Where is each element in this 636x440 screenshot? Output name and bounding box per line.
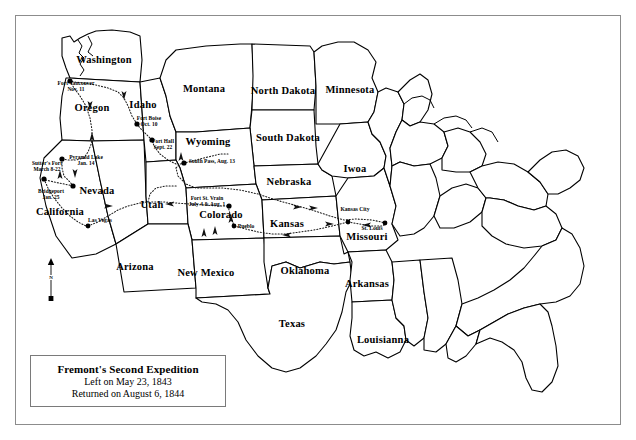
site-date: March 8-22	[32, 167, 62, 173]
city-dot-st-louis	[383, 221, 388, 226]
site-label-fort-hall: Fort HallSept. 22	[152, 139, 174, 150]
site-label-fort-vancouver: Fort VancouverNov. 11	[58, 81, 95, 92]
site-date: Nov. 11	[58, 87, 95, 93]
state-label-idaho: Idaho	[129, 99, 156, 110]
state-label-missouri: Missouri	[346, 231, 387, 242]
state-label-new-mexico: New Mexico	[177, 267, 234, 278]
state-label-colorado: Colorado	[199, 209, 243, 220]
site-date: Jan. 25	[38, 195, 64, 201]
state-label-washington: Washington	[76, 54, 132, 65]
state-label-arizona: Arizona	[116, 261, 154, 272]
state-label-louisianna: Louisianna	[357, 334, 409, 345]
state-label-iwoa: Iwoa	[344, 163, 367, 174]
title-cartouche: Fremont's Second Expedition Left on May …	[30, 355, 226, 407]
city-dot-pueblo	[232, 224, 237, 229]
compass-north-label: N	[48, 275, 54, 280]
city-label-pueblo: Pueblo	[238, 224, 254, 230]
site-dot-south-pass	[181, 160, 186, 165]
state-label-north-dakota: North Dakota	[251, 85, 316, 96]
city-dot-kansas-city	[346, 220, 351, 225]
city-label-st-louis: St. Louis	[361, 226, 382, 232]
state-label-oregon: Oregon	[75, 102, 110, 113]
state-label-utah: Utah	[141, 199, 164, 210]
state-outlines	[40, 30, 584, 392]
state-label-montana: Montana	[183, 83, 225, 94]
site-dot-fort-st-vrain	[226, 203, 231, 208]
site-label-fort-boise: Fort BoiseOct. 10	[137, 116, 161, 127]
north-arrow-compass: N	[44, 258, 58, 304]
site-label-fort-st-vrain: Fort St. VrainJuly 4 & Aug. 1	[189, 196, 226, 207]
state-label-south-dakota: South Dakota	[256, 132, 320, 143]
state-label-minnesota: Minnesota	[325, 84, 374, 95]
site-label-pyramid-lake: Pyramid LakeJan. 14	[69, 155, 103, 166]
state-label-texas: Texas	[279, 318, 305, 329]
site-date: Oct. 10	[137, 122, 161, 128]
city-dot-las-vegas	[86, 224, 91, 229]
state-label-wyoming: Wyoming	[186, 136, 231, 147]
return-date-line: Returned on August 6, 1844	[72, 388, 185, 400]
site-label-south-pass: South Pass, Aug. 13	[189, 159, 235, 165]
state-label-oklahoma: Oklahoma	[281, 265, 330, 276]
city-label-kansas-city: Kansas City	[340, 207, 369, 213]
city-label-las-vegas: Las Vegas	[88, 218, 112, 224]
map-plate: .bd { fill:#ffffff; stroke:#000000; stro…	[0, 0, 636, 440]
state-label-kansas: Kansas	[270, 218, 304, 229]
site-date: July 4 & Aug. 1	[189, 202, 226, 208]
site-dot-bridgeport	[70, 183, 75, 188]
site-label-bridgeport: BridgeportJan. 25	[38, 189, 64, 200]
site-date: Jan. 14	[69, 161, 103, 167]
expedition-title: Fremont's Second Expedition	[57, 363, 198, 375]
state-label-nevada: Nevada	[79, 185, 114, 196]
departure-date-line: Left on May 23, 1843	[84, 376, 172, 388]
state-label-nebraska: Nebraska	[267, 176, 312, 187]
site-date: Sept. 22	[152, 145, 174, 151]
state-label-arkansas: Arkansas	[345, 278, 389, 289]
state-label-california: California	[36, 206, 84, 217]
site-dot-sutters-fort	[41, 176, 46, 181]
site-name: South Pass, Aug. 13	[189, 158, 235, 164]
site-label-sutters-fort: Sutter's FortMarch 8-22	[32, 161, 62, 172]
